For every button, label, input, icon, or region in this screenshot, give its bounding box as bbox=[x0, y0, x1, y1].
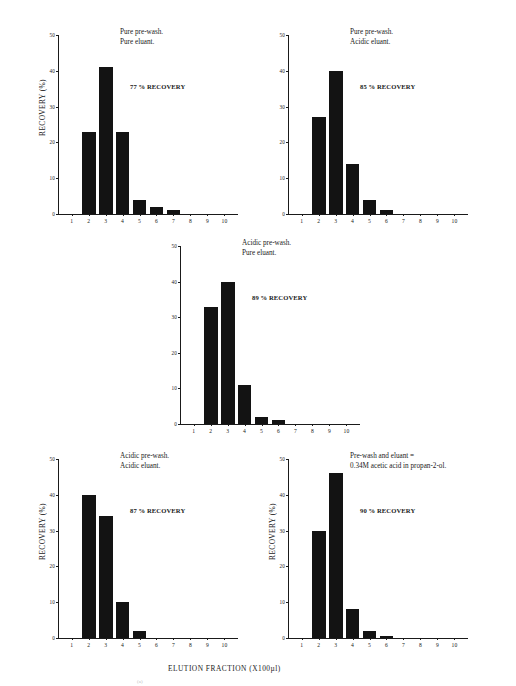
y-tick-mark bbox=[56, 142, 59, 143]
bar bbox=[380, 210, 394, 214]
y-tick-mark bbox=[286, 178, 289, 179]
x-tick-mark bbox=[72, 214, 73, 216]
y-tick-mark bbox=[56, 107, 59, 108]
plot-area: 0102030405012345678910 bbox=[58, 459, 238, 638]
x-tick-label: 4 bbox=[243, 428, 246, 434]
bar bbox=[363, 631, 377, 638]
x-tick-label: 2 bbox=[87, 642, 90, 648]
y-tick-label: 40 bbox=[172, 279, 177, 285]
x-tick-label: 6 bbox=[155, 218, 158, 224]
bar bbox=[133, 631, 147, 638]
caption-line: Acidic pre-wash. bbox=[120, 451, 169, 461]
caption-line: Pre-wash and eluant = bbox=[350, 451, 446, 461]
x-tick-mark bbox=[106, 214, 107, 216]
y-axis-line bbox=[58, 459, 59, 638]
y-tick-label: 20 bbox=[172, 350, 177, 356]
x-axis-label-global: ELUTION FRACTION (X100µl) bbox=[168, 664, 281, 673]
x-tick-mark bbox=[173, 638, 174, 640]
y-tick-mark bbox=[56, 35, 59, 36]
x-tick-mark bbox=[262, 424, 263, 426]
bar bbox=[116, 132, 130, 214]
x-tick-label: 10 bbox=[452, 642, 458, 648]
x-tick-label: 2 bbox=[209, 428, 212, 434]
x-tick-label: 2 bbox=[317, 642, 320, 648]
panel-caption: Pre-wash and eluant =0.34M acetic acid i… bbox=[350, 451, 446, 472]
x-axis-line bbox=[288, 638, 468, 639]
bar bbox=[329, 473, 343, 638]
x-tick-mark bbox=[319, 638, 320, 640]
bar bbox=[312, 531, 326, 638]
x-tick-mark bbox=[156, 638, 157, 640]
y-tick-mark bbox=[286, 531, 289, 532]
y-axis-label: RECOVERY (%) bbox=[38, 503, 47, 560]
panel-caption: Pure pre-wash.Acidic eluant. bbox=[350, 27, 393, 48]
scan-artifact-mark: (a) bbox=[137, 679, 143, 684]
x-tick-label: 7 bbox=[294, 428, 297, 434]
y-tick-mark bbox=[178, 388, 181, 389]
x-tick-mark bbox=[370, 214, 371, 216]
x-tick-mark bbox=[336, 638, 337, 640]
x-tick-mark bbox=[295, 424, 296, 426]
y-tick-label: 30 bbox=[280, 528, 285, 534]
x-tick-mark bbox=[353, 638, 354, 640]
x-tick-label: 7 bbox=[172, 218, 175, 224]
x-tick-mark bbox=[386, 638, 387, 640]
figure-root: 0102030405012345678910Pure pre-wash.Pure… bbox=[0, 0, 516, 686]
x-tick-label: 1 bbox=[70, 218, 73, 224]
bar bbox=[363, 200, 377, 214]
x-tick-mark bbox=[194, 424, 195, 426]
x-tick-label: 1 bbox=[70, 642, 73, 648]
bar bbox=[167, 210, 181, 214]
caption-line: Pure pre-wash. bbox=[350, 27, 393, 37]
chart-panel-2: 0102030405012345678910Pure pre-wash.Acid… bbox=[288, 35, 468, 214]
x-tick-label: 9 bbox=[436, 642, 439, 648]
x-tick-mark bbox=[123, 638, 124, 640]
bar bbox=[346, 164, 360, 214]
y-tick-mark bbox=[286, 459, 289, 460]
y-tick-mark bbox=[56, 602, 59, 603]
x-tick-label: 3 bbox=[104, 218, 107, 224]
x-tick-label: 7 bbox=[402, 642, 405, 648]
y-tick-mark bbox=[286, 35, 289, 36]
x-tick-label: 4 bbox=[351, 218, 354, 224]
x-tick-label: 5 bbox=[138, 218, 141, 224]
y-tick-label: 50 bbox=[280, 32, 285, 38]
bar bbox=[99, 67, 113, 214]
recovery-annotation: 89 % RECOVERY bbox=[252, 294, 307, 301]
x-tick-mark bbox=[302, 638, 303, 640]
x-tick-mark bbox=[211, 424, 212, 426]
y-axis-line bbox=[180, 246, 181, 424]
y-tick-mark bbox=[286, 214, 289, 215]
panel-caption: Acidic pre-wash.Acidic eluant. bbox=[120, 451, 169, 472]
x-tick-mark bbox=[386, 214, 387, 216]
chart-panel-5: 0102030405012345678910Pre-wash and eluan… bbox=[288, 459, 468, 638]
bar bbox=[272, 420, 286, 424]
x-tick-mark bbox=[224, 638, 225, 640]
chart-panel-4: 0102030405012345678910Acidic pre-wash.Ac… bbox=[58, 459, 238, 638]
y-tick-mark bbox=[286, 602, 289, 603]
bar bbox=[380, 636, 394, 638]
x-tick-label: 1 bbox=[300, 218, 303, 224]
chart-panel-3: 0102030405012345678910Acidic pre-wash.Pu… bbox=[180, 246, 360, 424]
x-tick-label: 6 bbox=[155, 642, 158, 648]
x-tick-label: 3 bbox=[226, 428, 229, 434]
x-tick-label: 4 bbox=[121, 642, 124, 648]
recovery-annotation: 77 % RECOVERY bbox=[130, 83, 185, 90]
bar bbox=[346, 609, 360, 638]
y-tick-mark bbox=[56, 495, 59, 496]
y-tick-mark bbox=[178, 246, 181, 247]
x-tick-label: 10 bbox=[452, 218, 458, 224]
bar bbox=[99, 516, 113, 638]
bar bbox=[133, 200, 147, 214]
x-tick-mark bbox=[140, 638, 141, 640]
plot-area: 0102030405012345678910 bbox=[58, 35, 238, 214]
y-axis-line bbox=[58, 35, 59, 214]
plot-area: 0102030405012345678910 bbox=[288, 35, 468, 214]
x-tick-label: 5 bbox=[260, 428, 263, 434]
x-tick-mark bbox=[403, 638, 404, 640]
x-tick-mark bbox=[123, 214, 124, 216]
x-tick-mark bbox=[190, 214, 191, 216]
x-tick-mark bbox=[346, 424, 347, 426]
x-tick-label: 1 bbox=[192, 428, 195, 434]
y-tick-label: 40 bbox=[50, 68, 55, 74]
